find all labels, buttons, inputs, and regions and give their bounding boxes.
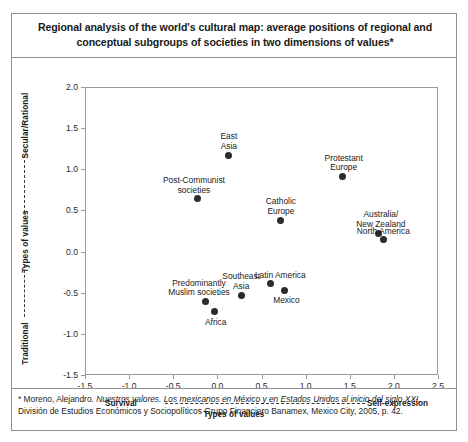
- y-tick-mark: [81, 87, 85, 88]
- x-tick-mark: [85, 375, 86, 379]
- y-axis-dashed-line-upper: [24, 155, 25, 213]
- x-tick-mark: [173, 375, 174, 379]
- data-point-label: Post-Communist societies: [134, 176, 254, 195]
- y-tick-label: -0.5: [40, 288, 78, 298]
- data-point-marker: [281, 287, 288, 294]
- figure-title-line-2: conceptual subgroups of societies in two…: [22, 35, 448, 50]
- footnote-rest: División de Estudios Económicos y Sociop…: [18, 406, 403, 416]
- footnote-source-title: Nuestros valores. Los mexicanos en Méxic…: [96, 394, 420, 404]
- y-tick-mark: [81, 293, 85, 294]
- x-tick-label: -1.5: [65, 381, 105, 391]
- figure-panel: Regional analysis of the world's cultura…: [11, 13, 457, 431]
- x-tick-label: 0.5: [242, 381, 282, 391]
- x-tick-label: 1.5: [330, 381, 370, 391]
- y-tick-mark: [81, 375, 85, 376]
- y-tick-label: 0.0: [40, 247, 78, 257]
- y-tick-mark: [81, 169, 85, 170]
- y-tick-label: -1.0: [40, 329, 78, 339]
- y-axis-title: Types of values: [21, 210, 30, 272]
- x-tick-label: -1.0: [109, 381, 149, 391]
- data-point-label: Latin America: [220, 271, 340, 281]
- footnote-divider: [12, 388, 456, 389]
- y-axis-pole-traditional: Traditional: [21, 322, 30, 365]
- data-point-label: East Asia: [169, 132, 289, 151]
- x-tick-mark: [306, 375, 307, 379]
- x-tick-mark: [217, 375, 218, 379]
- y-axis-dashed-line-lower: [24, 265, 25, 317]
- x-tick-mark: [129, 375, 130, 379]
- x-tick-mark: [350, 375, 351, 379]
- y-tick-mark: [81, 128, 85, 129]
- data-point-marker: [202, 298, 209, 305]
- y-tick-label: 1.5: [40, 123, 78, 133]
- y-tick-label: 2.0: [40, 82, 78, 92]
- y-tick-label: -1.5: [40, 370, 78, 380]
- x-tick-label: -0.5: [153, 381, 193, 391]
- data-point-marker: [267, 280, 274, 287]
- x-tick-label: 2.0: [374, 381, 414, 391]
- y-tick-label: 1.0: [40, 164, 78, 174]
- y-tick-mark: [81, 334, 85, 335]
- x-tick-mark: [438, 375, 439, 379]
- footnote-prefix: * Moreno, Alejandro.: [18, 394, 96, 404]
- data-point-label: Africa: [156, 318, 276, 328]
- x-tick-label: 0.0: [197, 381, 237, 391]
- x-tick-mark: [394, 375, 395, 379]
- y-axis-pole-secular-rational: Secular/Rational: [21, 93, 30, 159]
- x-tick-mark: [262, 375, 263, 379]
- data-point-label: Mexico: [226, 296, 346, 306]
- y-tick-mark: [81, 210, 85, 211]
- figure-title-line-1: Regional analysis of the world's cultura…: [38, 21, 432, 33]
- y-tick-mark: [81, 252, 85, 253]
- footnote-citation: * Moreno, Alejandro. Nuestros valores. L…: [18, 394, 452, 417]
- y-tick-label: 0.5: [40, 205, 78, 215]
- plot-region: Secular/Rational Types of values Traditi…: [12, 58, 456, 388]
- figure-title: Regional analysis of the world's cultura…: [22, 20, 448, 50]
- data-point-label: Protestant Europe: [284, 154, 404, 173]
- x-tick-label: 1.0: [286, 381, 326, 391]
- data-point-label: North America: [323, 227, 443, 237]
- x-tick-label: 2.5: [418, 381, 458, 391]
- y-axis-title-group: Secular/Rational Types of values Traditi…: [12, 87, 38, 375]
